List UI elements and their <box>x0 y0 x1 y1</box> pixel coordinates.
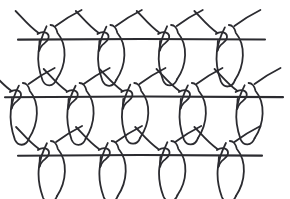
knit-structure-diagram <box>0 0 290 199</box>
knot-tail-tick <box>68 99 69 109</box>
course-line <box>18 155 262 156</box>
knot-tail-tick <box>160 41 161 51</box>
diagram-background <box>0 0 290 199</box>
knot-tail-tick <box>99 41 100 51</box>
knot-tail-tick <box>39 41 40 51</box>
course-line <box>5 97 283 98</box>
knot-tail-tick <box>217 41 218 51</box>
knit-diagram-canvas <box>0 0 290 199</box>
knot-tail-tick <box>160 157 161 167</box>
knot-tail-tick <box>218 157 219 167</box>
knot-tail-tick <box>180 99 181 109</box>
course-line <box>18 39 265 40</box>
knot-tail-tick <box>39 157 40 167</box>
knot-tail-tick <box>11 99 12 109</box>
knot-tail-tick <box>100 157 101 167</box>
knot-tail-tick <box>123 99 124 109</box>
knot-tail-tick <box>237 99 238 109</box>
